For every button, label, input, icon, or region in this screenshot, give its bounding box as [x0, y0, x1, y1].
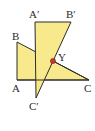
label-a: A	[12, 82, 20, 94]
label-c: C	[84, 82, 91, 94]
label-b-prime: B′	[66, 8, 76, 20]
geometry-diagram: A′ B′ B Y A C C′	[0, 0, 95, 131]
label-y: Y	[58, 51, 66, 63]
label-a-prime: A′	[29, 8, 39, 20]
label-c-prime: C′	[29, 100, 39, 112]
label-b: B	[12, 30, 19, 42]
intersection-point-y	[50, 58, 55, 63]
